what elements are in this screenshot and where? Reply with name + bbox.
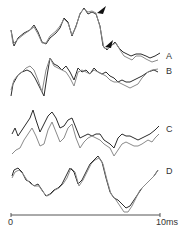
trace-b	[11, 58, 158, 96]
trace-label-a: A	[166, 51, 172, 61]
trace-d	[12, 156, 158, 212]
trace-label-b: B	[166, 66, 172, 76]
x-tick-10ms: 10ms	[156, 217, 178, 227]
trace-label-c: C	[166, 124, 173, 134]
waveform-chart	[0, 0, 182, 235]
trace-a	[11, 8, 160, 62]
trace-label-d: D	[166, 166, 173, 176]
trace-c	[12, 110, 159, 156]
x-axis	[11, 213, 160, 217]
arrowhead-icon	[97, 6, 106, 14]
arrowhead-icon	[105, 40, 113, 48]
x-tick-0: 0	[8, 217, 13, 227]
